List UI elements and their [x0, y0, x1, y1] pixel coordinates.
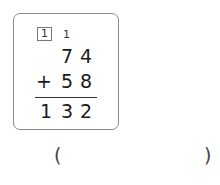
addend2-tens: 5: [61, 72, 73, 91]
carry-digit-tens: 1: [63, 29, 70, 40]
sum-hundreds: 1: [40, 102, 52, 121]
answer-close-paren: ): [204, 146, 211, 165]
carry-digit-boxed: 1: [38, 28, 51, 40]
sum-ones: 2: [80, 102, 92, 121]
answer-open-paren: (: [54, 146, 61, 165]
carry-box-hundreds: 1: [37, 27, 52, 41]
addend1-ones: 4: [80, 47, 92, 66]
plus-operator: +: [36, 72, 52, 91]
answer-blank[interactable]: [66, 146, 202, 166]
addend2-ones: 8: [80, 72, 92, 91]
addend1-tens: 7: [61, 47, 73, 66]
sum-line: [35, 97, 97, 98]
sum-tens: 3: [61, 102, 73, 121]
